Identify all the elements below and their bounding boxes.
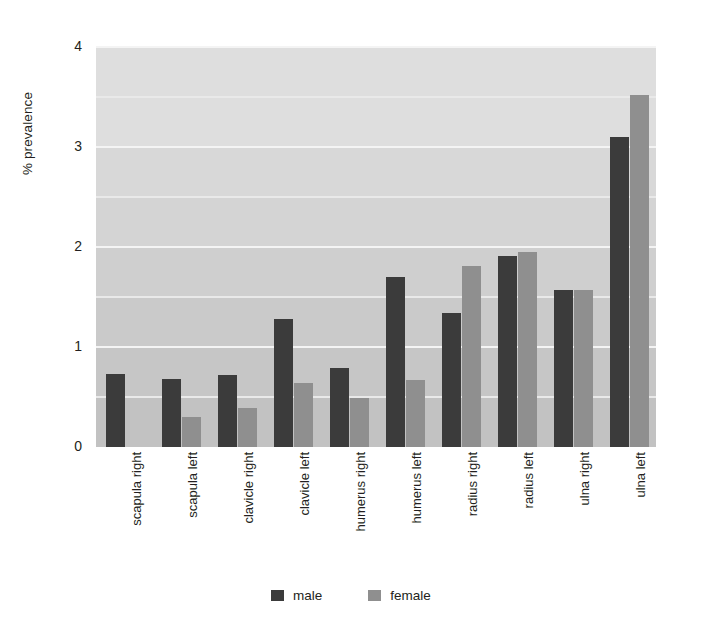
bar-female[interactable] bbox=[294, 383, 313, 447]
x-tick-label: humerus right bbox=[353, 452, 368, 531]
bar-group bbox=[610, 47, 649, 447]
bar-male[interactable] bbox=[218, 375, 237, 447]
x-tick-label: clavicle right bbox=[241, 452, 256, 524]
bar-female[interactable] bbox=[630, 95, 649, 447]
plot-area bbox=[96, 47, 656, 447]
x-tick-label: clavicle left bbox=[297, 452, 312, 516]
legend-item-female[interactable]: female bbox=[368, 588, 431, 603]
y-tick-label: 4 bbox=[20, 39, 82, 53]
legend-swatch-icon bbox=[271, 590, 284, 601]
bar-group bbox=[274, 47, 313, 447]
bar-male[interactable] bbox=[106, 374, 125, 447]
bar-male[interactable] bbox=[162, 379, 181, 447]
bar-female[interactable] bbox=[238, 408, 257, 447]
x-tick-label: ulna right bbox=[577, 452, 592, 505]
x-axis-tick-labels: scapula rightscapula leftclavicle rightc… bbox=[96, 452, 656, 572]
bar-female[interactable] bbox=[406, 380, 425, 447]
bar-male[interactable] bbox=[274, 319, 293, 447]
legend-label: female bbox=[390, 588, 431, 603]
chart-legend: malefemale bbox=[0, 588, 702, 603]
y-tick-label: 3 bbox=[20, 139, 82, 153]
legend-label: male bbox=[293, 588, 322, 603]
y-tick-label: 0 bbox=[20, 439, 82, 453]
bar-group bbox=[162, 47, 201, 447]
x-tick-label: scapula left bbox=[185, 452, 200, 518]
bar-female[interactable] bbox=[182, 417, 201, 447]
bar-group bbox=[330, 47, 369, 447]
x-tick-label: ulna left bbox=[633, 452, 648, 498]
bar-male[interactable] bbox=[386, 277, 405, 447]
y-axis-tick-labels: 01234 bbox=[20, 0, 82, 625]
legend-swatch-icon bbox=[368, 590, 381, 601]
bar-group bbox=[218, 47, 257, 447]
bar-male[interactable] bbox=[554, 290, 573, 447]
bar-female[interactable] bbox=[574, 290, 593, 447]
bar-group bbox=[554, 47, 593, 447]
x-tick-label: radius right bbox=[465, 452, 480, 516]
y-tick-label: 1 bbox=[20, 339, 82, 353]
bar-female[interactable] bbox=[518, 252, 537, 447]
x-tick-label: scapula right bbox=[129, 452, 144, 526]
bar-male[interactable] bbox=[330, 368, 349, 447]
bar-group bbox=[498, 47, 537, 447]
bar-group bbox=[386, 47, 425, 447]
legend-item-male[interactable]: male bbox=[271, 588, 322, 603]
bar-chart-figure: % prevalence 01234 scapula rightscapula … bbox=[0, 0, 702, 625]
bar-female[interactable] bbox=[462, 266, 481, 447]
bar-male[interactable] bbox=[442, 313, 461, 447]
bar-male[interactable] bbox=[610, 137, 629, 447]
bar-female[interactable] bbox=[350, 398, 369, 447]
bar-group bbox=[442, 47, 481, 447]
y-tick-label: 2 bbox=[20, 239, 82, 253]
bar-male[interactable] bbox=[498, 256, 517, 447]
x-tick-label: humerus left bbox=[409, 452, 424, 524]
x-tick-label: radius left bbox=[521, 452, 536, 508]
bar-group bbox=[106, 47, 145, 447]
